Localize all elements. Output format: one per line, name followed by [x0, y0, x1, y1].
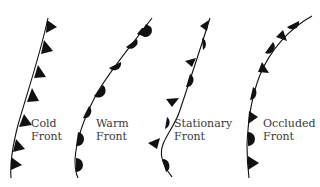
occluded-front-symbol: [247, 16, 312, 178]
occluded-front-label-line2: Front: [263, 130, 316, 143]
cold-front-symbol: [11, 18, 57, 178]
warm-front-label-line1: Warm: [96, 117, 129, 130]
semicircle-icon: [287, 21, 299, 29]
semicircle-icon: [76, 132, 84, 146]
stationary-front-label-line2: Front: [174, 130, 232, 143]
semicircle-icon: [202, 38, 206, 50]
warm-front-semicircles: [76, 24, 152, 172]
triangle-icon: [34, 65, 46, 78]
cold-front-label: Cold Front: [31, 117, 62, 143]
occluded-front-symbols: [248, 21, 299, 170]
triangle-icon: [248, 111, 258, 124]
triangle-icon: [148, 138, 160, 149]
warm-front-label-line2: Front: [96, 130, 129, 143]
weather-fronts-diagram: [0, 0, 320, 187]
triangle-icon: [200, 20, 209, 31]
triangle-icon: [41, 40, 53, 54]
warm-front-label: Warm Front: [96, 117, 129, 143]
cold-front-label-line2: Front: [31, 130, 62, 143]
triangle-icon: [46, 20, 57, 33]
semicircle-icon: [165, 117, 170, 129]
cold-front-label-line1: Cold: [31, 117, 62, 130]
triangle-icon: [166, 98, 179, 107]
semicircle-icon: [76, 158, 83, 172]
triangle-icon: [276, 30, 287, 41]
semicircle-icon: [126, 39, 138, 49]
occluded-front-line: [247, 16, 312, 178]
semicircle-icon: [83, 106, 91, 118]
warm-front-line: [75, 18, 152, 178]
occluded-front-label: Occluded Front: [263, 117, 316, 143]
triangle-icon: [258, 62, 269, 73]
semicircle-icon: [109, 62, 121, 70]
semicircle-icon: [186, 74, 193, 87]
semicircle-icon: [162, 159, 169, 172]
semicircle-icon: [248, 132, 255, 146]
triangle-icon: [11, 157, 22, 170]
cold-front-triangles: [11, 20, 57, 170]
semicircle-icon: [94, 85, 106, 98]
stationary-front-label-line1: Stationary: [174, 117, 232, 130]
triangle-icon: [248, 156, 259, 170]
stationary-front-label: Stationary Front: [174, 117, 232, 143]
warm-front-symbol: [75, 18, 152, 178]
stationary-front-symbol: [148, 18, 210, 177]
stationary-front-symbols: [148, 20, 209, 172]
occluded-front-label-line1: Occluded: [263, 117, 316, 130]
